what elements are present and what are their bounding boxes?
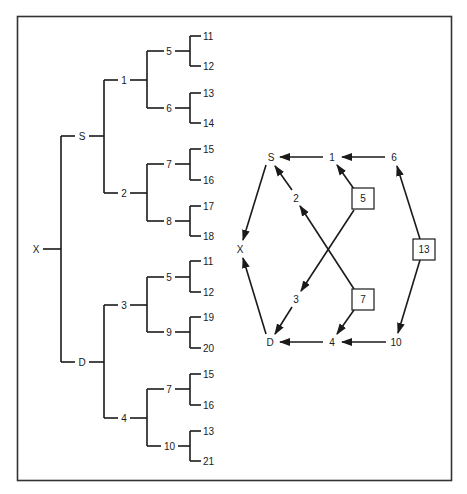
graph-node-1: 1 <box>329 152 335 163</box>
tree-node: 8 <box>166 216 172 227</box>
graph-node-3: 3 <box>293 294 299 305</box>
graph-node-d: D <box>266 337 273 348</box>
graph-node-s: S <box>268 152 275 163</box>
tree-leaf: 13 <box>203 88 215 99</box>
tree-node: 6 <box>166 103 172 114</box>
tree-leaf: 14 <box>203 118 215 129</box>
tree-leaf: 17 <box>203 201 215 212</box>
edge-3-to-d <box>275 307 292 334</box>
tree-node: 7 <box>166 159 172 170</box>
tree-node: 5 <box>166 46 172 57</box>
search-tree: X S D 1 2 3 4 5 6 7 8 5 9 7 10 11 12 13 … <box>33 31 215 467</box>
tree-node: 5 <box>166 272 172 283</box>
tree-leaf: 11 <box>203 31 214 42</box>
edge-2-to-s <box>275 166 292 190</box>
graph-node-10: 10 <box>390 337 402 348</box>
tree-node: 7 <box>166 384 172 395</box>
graph-node-2: 2 <box>293 193 299 204</box>
edge-d-to-x <box>243 258 266 334</box>
edge-13-to-10 <box>398 260 420 333</box>
tree-node: 2 <box>121 188 127 199</box>
graph-node-x: X <box>237 244 244 255</box>
edge-13-to-6 <box>397 166 420 239</box>
graph-node-7: 7 <box>360 294 366 305</box>
tree-leaf: 21 <box>203 456 215 467</box>
edge-7-to-4 <box>337 310 354 334</box>
tree-leaf: 16 <box>203 400 215 411</box>
tree-leaf: 12 <box>203 61 215 72</box>
tree-leaf: 19 <box>203 312 215 323</box>
tree-node: 9 <box>166 327 172 338</box>
graph-node-13: 13 <box>418 244 430 255</box>
tree-node: 4 <box>121 413 127 424</box>
tree-leaf: 18 <box>203 231 215 242</box>
tree-leaf: 16 <box>203 175 215 186</box>
graph-node-6: 6 <box>391 152 397 163</box>
tree-leaf: 20 <box>203 343 215 354</box>
edge-7-to-2 <box>300 206 354 289</box>
tree-leaf: 15 <box>203 369 215 380</box>
edge-5-to-3 <box>301 210 354 291</box>
tree-leaf: 13 <box>203 426 215 437</box>
tree-node-s: S <box>79 131 86 142</box>
tree-leaf: 12 <box>203 287 215 298</box>
tree-node: 1 <box>121 75 127 86</box>
dependency-graph: S 1 6 2 5 X 13 3 7 D 4 10 <box>237 152 435 348</box>
tree-node-d: D <box>78 357 85 368</box>
edge-s-to-x <box>243 165 266 240</box>
edge-5-to-1 <box>337 165 354 189</box>
tree-node: 10 <box>164 441 176 452</box>
graph-node-5: 5 <box>360 193 366 204</box>
figure-frame <box>18 17 452 481</box>
diagram-canvas: X S D 1 2 3 4 5 6 7 8 5 9 7 10 11 12 13 … <box>0 0 467 494</box>
tree-node-root: X <box>33 244 40 255</box>
graph-node-4: 4 <box>329 337 335 348</box>
tree-node: 3 <box>121 300 127 311</box>
tree-leaf: 15 <box>203 144 215 155</box>
tree-leaf: 11 <box>203 256 214 267</box>
